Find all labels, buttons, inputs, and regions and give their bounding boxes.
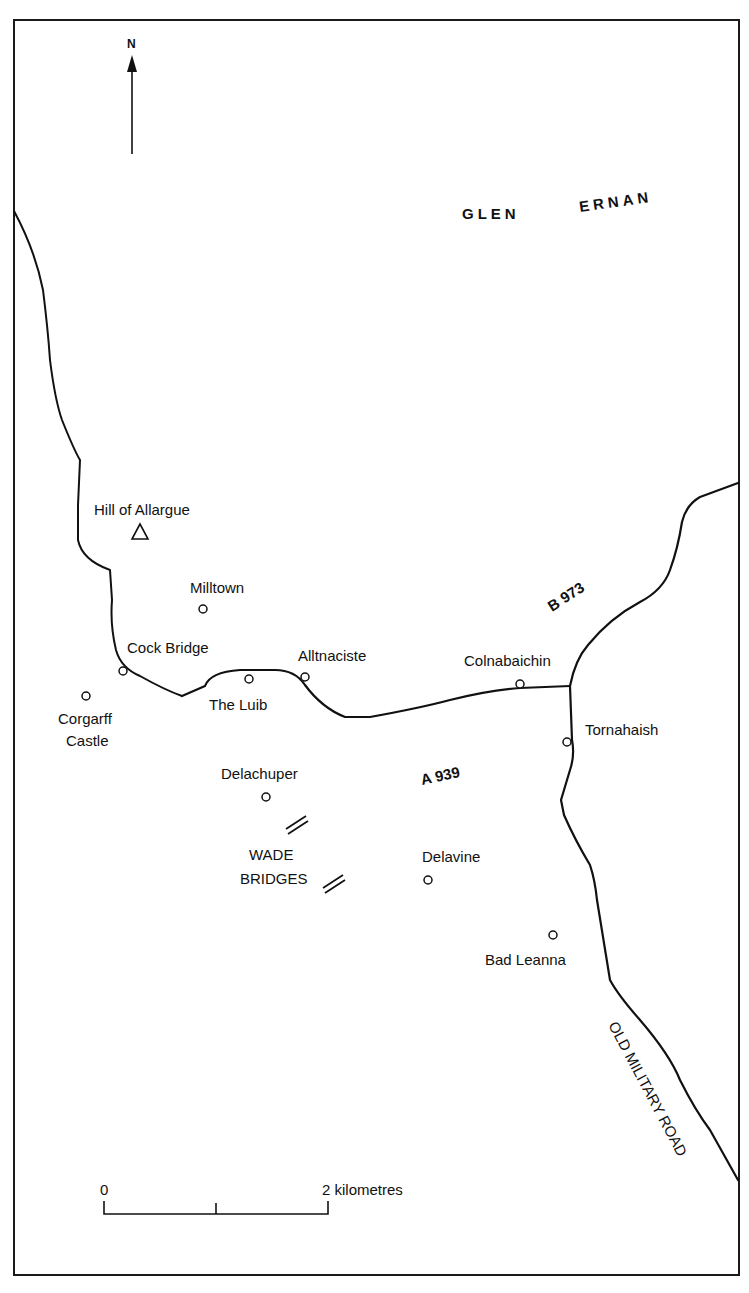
road-label-a939: A 939 xyxy=(419,763,461,788)
place-label: Alltnaciste xyxy=(298,647,366,664)
map-canvas: N GLEN ERNAN A 939 B 973 OLD MILITARY RO… xyxy=(0,0,749,1293)
feature-wade-bridges: WADE BRIDGES xyxy=(240,816,345,893)
settlement-circle-icon xyxy=(262,793,270,801)
place-corgarff-castle: Corgarff Castle xyxy=(58,692,113,749)
place-label: Delavine xyxy=(422,848,480,865)
feature-label: WADE xyxy=(249,846,293,863)
road-western-track xyxy=(14,211,182,696)
place-label: Tornahaish xyxy=(585,721,658,738)
place-the-luib: The Luib xyxy=(209,675,267,713)
settlement-circle-icon xyxy=(516,680,524,688)
place-delachuper: Delachuper xyxy=(221,765,298,801)
summit-hill-of-allargue: Hill of Allargue xyxy=(94,501,190,539)
place-colnabaichin: Colnabaichin xyxy=(464,652,551,688)
place-label: Cock Bridge xyxy=(127,639,209,656)
north-label: N xyxy=(127,37,136,51)
road-label-old-military-road: OLD MILITARY ROAD xyxy=(605,1018,691,1159)
bridge-mark-icon xyxy=(286,816,308,834)
north-arrow-head-icon xyxy=(127,55,137,72)
road-b973 xyxy=(570,483,738,686)
triangle-summit-icon xyxy=(132,524,148,539)
place-cock-bridge: Cock Bridge xyxy=(119,639,209,675)
road-label-b973: B 973 xyxy=(544,578,587,614)
settlement-circle-icon xyxy=(199,605,207,613)
settlement-circle-icon xyxy=(245,675,253,683)
place-label: Colnabaichin xyxy=(464,652,551,669)
scale-bar-line xyxy=(104,1201,328,1214)
scale-bar: 0 2 kilometres xyxy=(100,1181,403,1214)
place-label: Castle xyxy=(66,732,109,749)
region-label-glen-ernan: GLEN ERNAN xyxy=(462,188,653,222)
settlement-circle-icon xyxy=(563,738,571,746)
place-label: Delachuper xyxy=(221,765,298,782)
settlement-circle-icon xyxy=(424,876,432,884)
region-label-word: GLEN xyxy=(462,205,520,222)
summit-label: Hill of Allargue xyxy=(94,501,190,518)
place-label: Bad Leanna xyxy=(485,951,567,968)
place-delavine: Delavine xyxy=(422,848,480,884)
settlement-circle-icon xyxy=(82,692,90,700)
region-label-word: ERNAN xyxy=(578,188,653,215)
place-label: Milltown xyxy=(190,579,244,596)
scale-label-end: 2 kilometres xyxy=(322,1181,403,1198)
map-frame xyxy=(14,20,739,1275)
place-alltnaciste: Alltnaciste xyxy=(298,647,366,681)
settlement-circle-icon xyxy=(119,667,127,675)
place-milltown: Milltown xyxy=(190,579,244,613)
place-label: The Luib xyxy=(209,696,267,713)
settlement-circle-icon xyxy=(301,673,309,681)
place-label: Corgarff xyxy=(58,710,113,727)
north-arrow: N xyxy=(127,37,137,154)
settlement-circle-icon xyxy=(549,931,557,939)
feature-label: BRIDGES xyxy=(240,870,308,887)
place-tornahaish: Tornahaish xyxy=(563,721,658,746)
bridge-mark-icon xyxy=(323,875,345,893)
scale-label-start: 0 xyxy=(100,1181,108,1198)
place-bad-leanna: Bad Leanna xyxy=(485,931,567,968)
